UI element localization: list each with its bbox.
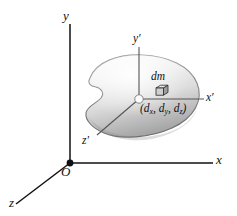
diagram-svg	[0, 0, 237, 216]
x-prime-mark: ′	[211, 91, 214, 103]
position-coordinates-label: (dx, dy, dz)	[140, 103, 186, 116]
origin-label-o: O	[61, 165, 70, 178]
figure-canvas: y x z O y′ x′ z′ dm (dx, dy, dz)	[0, 0, 237, 216]
y-prime-mark: ′	[138, 32, 141, 44]
mass-element-label: dm	[151, 71, 165, 83]
z-prime-mark: ′	[86, 134, 89, 146]
cube-icon	[156, 85, 168, 95]
axis-label-z-prime: z′	[82, 135, 89, 147]
paren-close: )	[183, 102, 187, 114]
axis-label-y: y	[63, 9, 69, 22]
axis-label-z: z	[9, 196, 14, 209]
axis-label-x: x	[216, 153, 222, 166]
axis-label-x-prime: x′	[206, 92, 214, 104]
axis-label-y-prime: y′	[133, 33, 141, 45]
